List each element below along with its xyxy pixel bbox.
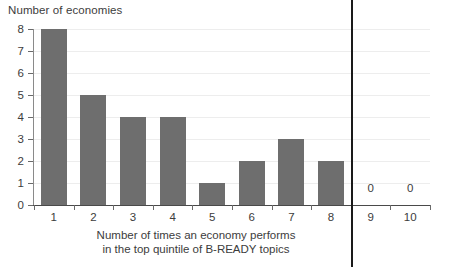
y-tick-mark [28, 161, 33, 162]
x-axis-title-line-2: in the top quintile of B-READY topics [34, 242, 358, 256]
y-tick-label: 4 [10, 111, 24, 123]
x-tick-mark [153, 205, 154, 210]
x-tick-label: 4 [169, 211, 175, 223]
x-tick-mark [390, 205, 391, 210]
y-tick-mark [28, 205, 33, 206]
y-tick-label: 7 [10, 45, 24, 57]
y-tick-mark [28, 117, 33, 118]
bar [278, 139, 304, 205]
bar [160, 117, 186, 205]
x-axis-line [30, 205, 430, 206]
gridline [34, 29, 430, 30]
y-tick-label: 8 [10, 23, 24, 35]
bar [239, 161, 265, 205]
x-tick-label: 1 [51, 211, 57, 223]
x-tick-mark [430, 205, 431, 210]
y-tick-mark [28, 73, 33, 74]
x-tick-label: 5 [209, 211, 215, 223]
y-tick-mark [28, 51, 33, 52]
y-tick-mark [28, 29, 33, 30]
y-tick-label: 0 [10, 199, 24, 211]
y-tick-label: 3 [10, 133, 24, 145]
x-tick-label: 6 [249, 211, 255, 223]
x-tick-label: 7 [288, 211, 294, 223]
y-tick-mark [28, 139, 33, 140]
y-tick-label: 2 [10, 155, 24, 167]
bar-chart: Number of economies 012345678 1234567891… [0, 0, 450, 267]
x-tick-label: 3 [130, 211, 136, 223]
x-axis-title-line-1: Number of times an economy performs [34, 228, 358, 242]
x-axis-title: Number of times an economy performs in t… [34, 228, 358, 256]
x-tick-mark [272, 205, 273, 210]
x-tick-mark [113, 205, 114, 210]
gridline [34, 73, 430, 74]
y-tick-label: 6 [10, 67, 24, 79]
y-tick-mark [28, 183, 33, 184]
bar-value-label: 0 [407, 182, 413, 194]
gridline [34, 51, 430, 52]
y-tick-mark [28, 95, 33, 96]
bar [120, 117, 146, 205]
x-tick-mark [74, 205, 75, 210]
x-tick-label: 10 [404, 211, 417, 223]
x-tick-label: 9 [367, 211, 373, 223]
bar-value-label: 0 [367, 182, 373, 194]
y-axis-line [33, 29, 34, 206]
bar [318, 161, 344, 205]
x-tick-mark [34, 205, 35, 210]
x-tick-mark [192, 205, 193, 210]
x-tick-label: 2 [90, 211, 96, 223]
x-tick-mark [232, 205, 233, 210]
x-tick-mark [311, 205, 312, 210]
y-tick-label: 5 [10, 89, 24, 101]
y-tick-label: 1 [10, 177, 24, 189]
y-axis-title: Number of economies [8, 4, 122, 16]
bar [41, 29, 67, 205]
bar [80, 95, 106, 205]
x-tick-label: 8 [328, 211, 334, 223]
bar [199, 183, 225, 205]
category-divider-line [351, 0, 353, 267]
